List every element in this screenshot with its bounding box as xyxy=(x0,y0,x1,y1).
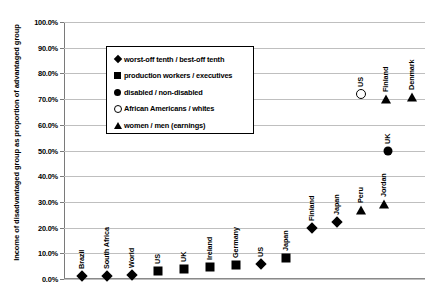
legend-label: women / men (earnings) xyxy=(124,121,205,130)
legend-marker-wrap xyxy=(112,72,123,79)
y-axis-tick-label: 90.0% xyxy=(12,43,58,52)
diamond-marker-icon xyxy=(331,217,342,228)
y-axis-tick-label: 100.0% xyxy=(12,18,58,27)
gridline xyxy=(64,279,425,280)
open-circle-marker-icon xyxy=(356,89,366,99)
legend-item: production workers / executives xyxy=(112,68,248,85)
triangle-marker-icon xyxy=(379,200,389,209)
legend-item: African Americans / whites xyxy=(112,101,248,118)
y-axis-tick-label: 0.0% xyxy=(12,275,58,284)
data-point-label: Finland xyxy=(381,67,390,92)
gridline xyxy=(64,176,425,177)
gridline xyxy=(64,253,425,254)
open-circle-icon xyxy=(114,105,122,113)
diamond-marker-icon xyxy=(255,258,266,269)
data-point-label: Jordan xyxy=(379,174,388,198)
square-marker-icon xyxy=(180,264,189,273)
gridline xyxy=(64,22,425,23)
y-axis-tick xyxy=(60,99,64,100)
chart-container: Income of disadvantaged group as proport… xyxy=(0,0,432,299)
data-point-label: US xyxy=(153,254,162,264)
gridline xyxy=(64,151,425,152)
legend-label: African Americans / whites xyxy=(124,104,214,113)
data-point-label: World xyxy=(127,248,136,268)
data-point-label: Peru xyxy=(356,187,365,203)
legend-marker-wrap xyxy=(112,105,123,113)
y-axis-tick-label: 10.0% xyxy=(12,249,58,258)
circle-icon xyxy=(114,89,121,96)
triangle-marker-icon xyxy=(407,92,417,101)
y-axis-tick xyxy=(60,22,64,23)
diamond-marker-icon xyxy=(76,271,87,282)
legend-label: production workers / executives xyxy=(124,71,232,80)
data-point-label: US xyxy=(256,247,265,257)
data-point-label: Brazil xyxy=(77,250,86,269)
gridline xyxy=(64,228,425,229)
legend-label: worst-off tenth / best-off tenth xyxy=(124,55,224,64)
y-axis-tick xyxy=(60,73,64,74)
legend-label: disabled / non-disabled xyxy=(124,88,203,97)
data-point-label: South Africa xyxy=(102,227,111,269)
triangle-marker-icon xyxy=(356,205,366,214)
data-point-label: Japan xyxy=(332,195,341,216)
data-point-label: US xyxy=(356,77,365,87)
square-marker-icon xyxy=(154,267,163,276)
y-axis-tick-label: 60.0% xyxy=(12,120,58,129)
circle-marker-icon xyxy=(384,146,393,155)
y-axis-tick-labels: 0.0%10.0%20.0%30.0%40.0%50.0%60.0%70.0%8… xyxy=(12,0,58,299)
data-point-label: Ireland xyxy=(205,237,214,260)
data-point-label: UK xyxy=(383,133,392,143)
legend-item: women / men (earnings) xyxy=(112,117,248,134)
chart-legend: worst-off tenth / best-off tenthproducti… xyxy=(106,46,254,134)
y-axis-tick xyxy=(60,253,64,254)
square-marker-icon xyxy=(206,263,215,272)
y-axis-tick xyxy=(60,279,64,280)
diamond-icon xyxy=(113,55,121,63)
data-point-label: UK xyxy=(179,251,188,261)
data-point-label: Germany xyxy=(231,227,240,258)
data-point-label: Denmark xyxy=(407,59,416,90)
y-axis-tick xyxy=(60,48,64,49)
diamond-marker-icon xyxy=(306,222,317,233)
y-axis-tick xyxy=(60,228,64,229)
y-axis-tick-label: 50.0% xyxy=(12,146,58,155)
legend-marker-wrap xyxy=(112,122,123,129)
y-axis-tick-label: 80.0% xyxy=(12,69,58,78)
legend-marker-wrap xyxy=(112,89,123,96)
y-axis-tick xyxy=(60,125,64,126)
data-point-label: Finland xyxy=(307,195,316,220)
triangle-marker-icon xyxy=(381,95,391,104)
triangle-icon xyxy=(114,122,122,129)
y-axis-tick-label: 20.0% xyxy=(12,223,58,232)
gridline xyxy=(64,202,425,203)
legend-marker-wrap xyxy=(112,56,123,62)
y-axis-tick-label: 70.0% xyxy=(12,95,58,104)
y-axis-tick xyxy=(60,176,64,177)
y-axis-tick-label: 30.0% xyxy=(12,197,58,206)
y-axis-tick-label: 40.0% xyxy=(12,172,58,181)
y-axis-tick xyxy=(60,202,64,203)
square-marker-icon xyxy=(282,254,291,263)
square-icon xyxy=(114,72,121,79)
square-marker-icon xyxy=(232,260,241,269)
legend-item: worst-off tenth / best-off tenth xyxy=(112,51,248,68)
legend-item: disabled / non-disabled xyxy=(112,84,248,101)
y-axis-tick xyxy=(60,151,64,152)
data-point-label: Japan xyxy=(281,231,290,252)
